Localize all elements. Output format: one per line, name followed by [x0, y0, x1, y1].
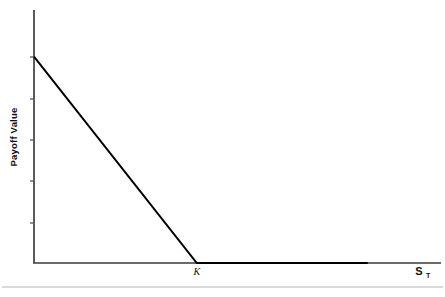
payoff-chart-figure: Payoff Value K S T [0, 0, 445, 297]
chart-background [0, 0, 445, 297]
strike-label-k: K [192, 266, 201, 277]
x-axis-label: S [415, 265, 422, 277]
x-axis-label-subscript: T [426, 272, 431, 279]
y-axis-label: Payoff Value [8, 108, 19, 167]
payoff-chart-svg: Payoff Value K S T [0, 0, 445, 297]
